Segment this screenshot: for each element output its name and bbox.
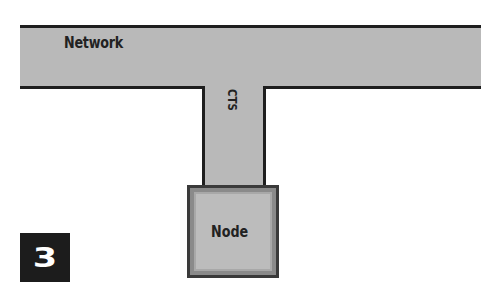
cts-label: CTS <box>225 89 239 111</box>
figure-number-badge: 3 <box>20 233 70 282</box>
network-label: Network <box>64 34 123 52</box>
node-label: Node <box>211 223 248 241</box>
figure-number: 3 <box>33 243 57 273</box>
